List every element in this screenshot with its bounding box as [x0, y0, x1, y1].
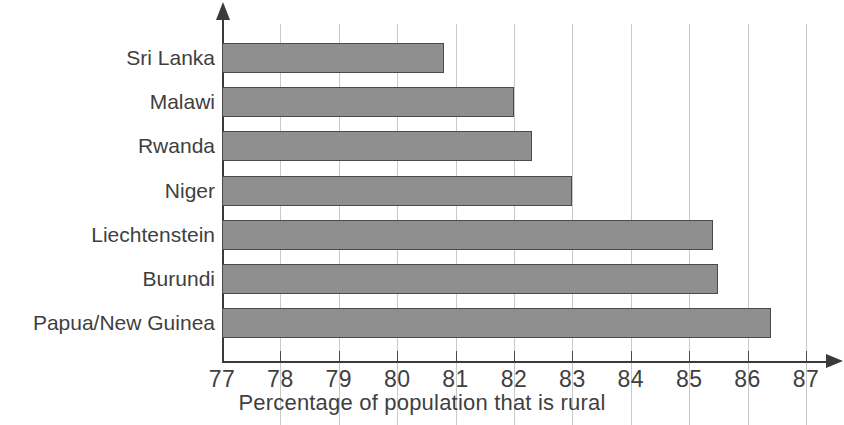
- bar: [222, 131, 532, 161]
- x-tick-label: 81: [431, 366, 481, 393]
- y-axis-arrow-icon: [216, 2, 230, 20]
- category-label: Niger: [7, 176, 222, 206]
- x-tick-label: 84: [606, 366, 656, 393]
- bar: [222, 87, 514, 117]
- x-tick-label: 79: [314, 366, 364, 393]
- gridline: [806, 24, 807, 425]
- gridline: [748, 24, 749, 425]
- category-label: Malawi: [7, 87, 222, 117]
- bar: [222, 264, 718, 294]
- bar: [222, 220, 713, 250]
- bar-chart: 7778798081828384858687 Sri LankaMalawiRw…: [0, 0, 844, 425]
- x-tick-label: 83: [547, 366, 597, 393]
- x-axis-arrow-icon: [826, 354, 843, 368]
- category-label: Papua/New Guinea: [7, 308, 222, 338]
- x-tick-label: 80: [372, 366, 422, 393]
- bar: [222, 43, 444, 73]
- x-axis-line: [222, 361, 830, 363]
- x-tick-label: 86: [723, 366, 773, 393]
- category-label: Burundi: [7, 264, 222, 294]
- category-label: Sri Lanka: [7, 43, 222, 73]
- category-label: Rwanda: [7, 131, 222, 161]
- x-tick-label: 85: [664, 366, 714, 393]
- category-label: Liechtenstein: [7, 220, 222, 250]
- x-tick-label: 82: [489, 366, 539, 393]
- x-tick-label: 87: [781, 366, 831, 393]
- x-tick-label: 77: [197, 366, 247, 393]
- bar: [222, 308, 771, 338]
- x-axis-title: Percentage of population that is rural: [0, 390, 844, 416]
- bar: [222, 176, 572, 206]
- x-tick-label: 78: [255, 366, 305, 393]
